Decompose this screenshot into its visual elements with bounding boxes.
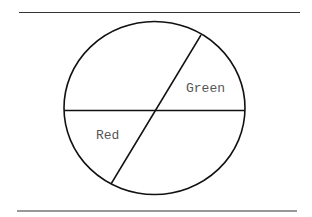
diagram-canvas: Green Red [0,0,312,217]
circle-outline [64,22,245,195]
diagonal-chord [111,35,201,184]
label-red: Red [96,128,119,143]
label-green: Green [186,81,225,96]
